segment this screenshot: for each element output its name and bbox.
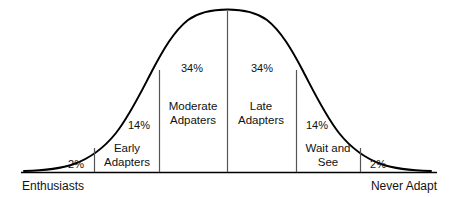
percent-label-wait-and-see: 14% bbox=[306, 119, 328, 131]
percent-label-never-adapt: 2% bbox=[370, 158, 386, 170]
segment-label-wait-and-see-line1: Wait and bbox=[306, 142, 351, 154]
segment-label-early-adapters-line2: Adapters bbox=[104, 156, 150, 168]
percent-label-enthusiasts: 2% bbox=[68, 158, 84, 170]
bell-curve-diagram: 2% 14% 34% 34% 14% 2% Early Adapters Mod… bbox=[0, 0, 453, 197]
segment-label-wait-and-see-line2: See bbox=[318, 156, 338, 168]
segment-label-late-adapters-line1: Late bbox=[250, 100, 272, 112]
segment-label-early-adapters-line1: Early bbox=[114, 142, 140, 154]
segment-label-moderate-adpaters-line1: Moderate bbox=[169, 100, 218, 112]
bell-curve-canvas: 2% 14% 34% 34% 14% 2% Early Adapters Mod… bbox=[0, 0, 453, 197]
axis-label-right-never-adapt: Never Adapt bbox=[371, 179, 438, 193]
percent-label-early-adapters: 14% bbox=[128, 119, 150, 131]
segment-label-moderate-adpaters-line2: Adpaters bbox=[170, 114, 216, 126]
percent-label-moderate-adpaters: 34% bbox=[181, 62, 203, 74]
percent-label-late-adapters: 34% bbox=[251, 62, 273, 74]
axis-label-left-enthusiasts: Enthusiasts bbox=[22, 179, 84, 193]
segment-label-late-adapters-line2: Adapters bbox=[238, 114, 284, 126]
